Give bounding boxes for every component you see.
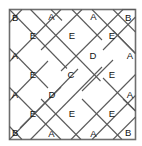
diamond-e-3: E <box>109 30 115 41</box>
edge-bottom-2: A <box>90 128 97 139</box>
diamond-c-center: C <box>68 69 75 80</box>
diamond-e-2: E <box>69 30 75 41</box>
diamond-e-1: E <box>30 30 36 41</box>
diamond-e-6: E <box>30 108 36 119</box>
corner-bottom-left: B <box>12 127 18 138</box>
diamond-e-8: E <box>109 108 115 119</box>
diamond-d-2: D <box>49 89 56 100</box>
corner-bottom-right: B <box>125 127 131 138</box>
lattice-svg: B B B B A A A A A A A A E E E E E E E E … <box>0 0 142 146</box>
edge-top-2: A <box>90 11 97 22</box>
edge-bottom-1: A <box>48 128 55 139</box>
corner-top-left: B <box>12 12 18 23</box>
edge-right-2: A <box>127 89 134 100</box>
diamond-e-5: E <box>109 69 115 80</box>
lattice-figure: B B B B A A A A A A A A E E E E E E E E … <box>0 0 142 146</box>
edge-left-1: A <box>12 50 19 61</box>
corner-top-right: B <box>125 12 131 23</box>
edge-right-1: A <box>127 50 134 61</box>
diamond-d-1: D <box>90 50 97 61</box>
edge-top-1: A <box>48 11 55 22</box>
edge-left-2: A <box>12 89 19 100</box>
diamond-e-7: E <box>69 108 75 119</box>
diamond-e-4: E <box>30 69 36 80</box>
